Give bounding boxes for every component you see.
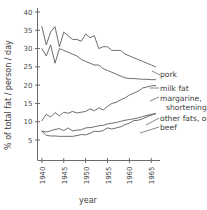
x-tick-label: 1940 <box>39 167 47 185</box>
y-axis-title: % of total fat / person / day <box>4 40 13 150</box>
series-line-beef <box>42 114 156 137</box>
y-tick-label: 35 <box>24 27 33 35</box>
x-tick-label: 1955 <box>105 167 113 185</box>
x-tick-label: 1950 <box>83 167 91 185</box>
y-tick-label: 20 <box>24 82 33 90</box>
x-axis-title: year <box>79 196 98 205</box>
leader-line <box>146 118 159 125</box>
series-labels: porkmilk fatmargarine,shorteningother fa… <box>160 70 207 132</box>
x-tick-label: 1960 <box>126 167 134 185</box>
y-tick-label: 15 <box>24 100 33 108</box>
series-label: pork <box>160 70 178 79</box>
chart-canvas: 510152025303540 % of total fat / person … <box>0 0 207 210</box>
series-label: shortening <box>166 103 207 112</box>
series-label: beef <box>160 123 177 132</box>
y-axis: 510152025303540 % of total fat / person … <box>4 8 40 160</box>
fat-consumption-line-chart: 510152025303540 % of total fat / person … <box>0 0 207 210</box>
series-label: margarine, <box>160 94 202 103</box>
leader-line <box>140 127 159 133</box>
leader-line <box>150 97 159 101</box>
series-line-other-fats-oils <box>42 114 156 132</box>
leader-line <box>152 71 160 75</box>
series-label: milk fat <box>160 84 189 93</box>
series-label: other fats, oils <box>160 114 207 123</box>
y-tick-label: 10 <box>24 118 33 126</box>
series-line-margarine-shortening <box>42 86 156 121</box>
x-axis-tick-labels: 194019451950195519601965 <box>39 167 156 185</box>
y-axis-tick-labels: 510152025303540 <box>24 9 33 145</box>
y-tick-label: 40 <box>24 9 33 17</box>
series-line-pork <box>42 27 156 67</box>
y-tick-label: 5 <box>28 137 32 145</box>
x-tick-label: 1965 <box>148 167 156 185</box>
y-tick-label: 25 <box>24 63 33 71</box>
x-axis: 194019451950195519601965 year <box>38 158 161 205</box>
label-leader-lines <box>140 71 160 133</box>
y-tick-label: 30 <box>24 45 33 53</box>
series-lines <box>42 27 156 137</box>
series-line-milk-fat <box>42 45 156 80</box>
x-tick-label: 1945 <box>61 167 69 185</box>
